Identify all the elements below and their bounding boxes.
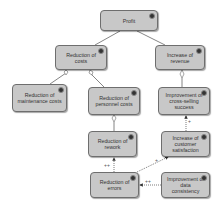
target-icon [196,48,202,54]
target-icon [149,13,155,19]
edge-label: + [155,157,158,163]
node-reduction-of-rework[interactable]: Reduction of rework [88,131,137,157]
node-label: Reduction of personnel costs [93,95,135,107]
node-label: Reduction of costs [60,52,102,64]
node-label: Increase of revenue [160,52,200,64]
node-reduction-of-personnel-costs[interactable]: Reduction of personnel costs [88,87,140,115]
target-icon [130,175,136,181]
target-icon [201,90,207,96]
node-label: Reduction of maintenance costs [17,92,62,104]
node-reduction-of-maintenance-costs[interactable]: Reduction of maintenance costs [12,84,67,112]
node-label: Reduction of errors [95,179,134,191]
target-icon [98,48,104,54]
edge-label: ++ [145,178,151,184]
target-icon [201,175,207,181]
diamond-icon [89,70,93,75]
node-label: Improvement of data consistency [166,176,205,194]
edge-costs-personnel [91,74,104,87]
node-reduction-of-costs[interactable]: Reduction of costs [55,45,107,70]
edge-profit-costs [95,31,120,45]
target-icon [201,134,207,140]
diamond-icon [112,115,116,122]
diamond-icon [180,70,184,78]
node-label: Reduction of rework [93,138,132,150]
node-improvement-of-cross-selling-success[interactable]: Improvement of cross-selling success [158,87,210,115]
edge-label: ++ [104,162,110,168]
target-icon [58,87,64,93]
edge-profit-revenue [137,31,165,45]
node-increase-of-revenue[interactable]: Increase of revenue [155,45,205,70]
node-profit[interactable]: Profit [100,10,158,31]
node-reduction-of-errors[interactable]: Reduction of errors [90,172,139,198]
node-increase-of-customer-satisfaction[interactable]: Increase of customer satisfaction [161,131,210,157]
node-improvement-of-data-consistency[interactable]: Improvement of data consistency [161,172,210,198]
edge-label: + [188,118,191,124]
node-label: Profit [123,18,135,24]
node-label: Increase of customer satisfaction [166,135,205,153]
edge-errors-satisfaction [137,157,168,172]
target-icon [131,90,137,96]
target-icon [128,134,134,140]
edge-costs-maintenance [50,73,66,84]
node-label: Improvement of cross-selling success [163,92,205,110]
